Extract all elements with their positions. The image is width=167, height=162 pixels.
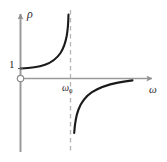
figure-container: ρ ω ω0 1 [0, 0, 167, 162]
origin-marker [17, 75, 23, 81]
curve-branch-left [21, 15, 69, 69]
plot-canvas [0, 0, 167, 162]
unit-tick-label: 1 [9, 59, 15, 70]
resonance-tick-label: ω0 [62, 83, 73, 95]
y-axis-label: ρ [27, 8, 33, 20]
resonance-tick-subscript: 0 [69, 87, 73, 95]
curve-branch-right [74, 80, 132, 133]
resonance-tick-symbol: ω [62, 82, 69, 93]
x-axis-label: ω [149, 84, 157, 95]
